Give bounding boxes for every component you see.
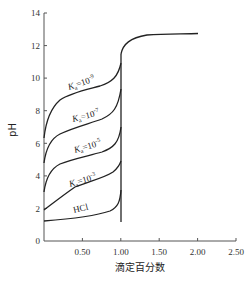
chart-svg: 0 2 4 6 8 10 12 14 0.50 1.00 1.50 2.00 2… [0,0,251,281]
x-axis-title: 滴定百分数 [115,261,165,273]
y-tick-0: 0 [36,236,41,246]
x-tick-1.00: 1.00 [113,247,129,257]
titration-chart: 0 2 4 6 8 10 12 14 0.50 1.00 1.50 2.00 2… [0,0,251,281]
label-ka-1e-7: Ka=10-7 [70,107,101,126]
curves [44,34,198,223]
y-tick-8: 8 [36,106,41,116]
curve-excess [121,34,198,55]
y-tick-10: 10 [31,73,41,83]
y-tick-labels: 0 2 4 6 8 10 12 14 [31,8,41,246]
x-tick-2.00: 2.00 [190,247,206,257]
label-hcl: HCl [72,201,89,214]
y-tick-12: 12 [31,41,40,51]
x-tick-labels: 0.50 1.00 1.50 2.00 2.50 [75,247,245,257]
x-tick-2.50: 2.50 [228,247,244,257]
x-tick-1.50: 1.50 [151,247,167,257]
y-tick-2: 2 [36,204,41,214]
curve-ka-1e-9 [44,63,121,138]
label-ka-1e-9: Ka=10-9 [65,73,96,93]
y-tick-4: 4 [36,171,41,181]
x-tick-0.50: 0.50 [75,247,91,257]
y-tick-6: 6 [36,139,41,149]
y-tick-14: 14 [31,8,41,18]
y-axis-title: pH [7,123,18,137]
